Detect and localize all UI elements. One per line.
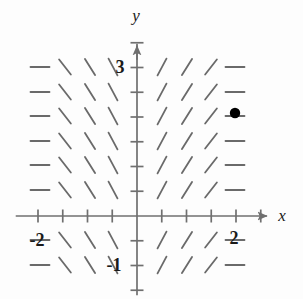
axes-group: [16, 44, 267, 295]
slope-mark: [182, 108, 192, 124]
slope-mark: [158, 84, 167, 101]
slope-mark: [205, 233, 217, 248]
slope-mark: [85, 59, 95, 75]
slope-mark: [158, 157, 167, 174]
slope-mark: [59, 134, 71, 149]
slope-mark: [205, 158, 217, 173]
x-axis-label: x: [278, 207, 286, 224]
slope-mark: [109, 232, 118, 249]
slope-mark: [109, 84, 118, 101]
slope-mark: [85, 157, 95, 173]
slope-mark: [158, 59, 167, 76]
x-tick-label-2: 2: [230, 229, 239, 247]
slope-mark: [85, 182, 95, 198]
slope-mark: [59, 258, 71, 273]
slope-mark: [205, 258, 217, 273]
slope-mark: [182, 157, 192, 173]
y-tick-label-minus1: -1: [107, 256, 122, 274]
slope-mark: [85, 108, 95, 124]
slope-mark: [85, 84, 95, 100]
slope-mark: [85, 257, 95, 273]
slope-mark: [85, 133, 95, 149]
slope-mark: [182, 232, 192, 248]
axis-ticks: [38, 43, 261, 291]
slope-mark: [59, 183, 71, 198]
slope-mark: [109, 133, 118, 150]
slope-mark: [59, 233, 71, 248]
slope-mark: [109, 157, 118, 174]
slope-mark: [182, 84, 192, 100]
slope-mark: [109, 108, 118, 125]
slope-mark: [182, 133, 192, 149]
data-points: [230, 108, 240, 118]
y-tick-label-3: 3: [116, 58, 125, 76]
slope-mark: [205, 85, 217, 100]
slope-mark: [59, 85, 71, 100]
slope-mark: [158, 108, 167, 125]
slope-mark: [182, 59, 192, 75]
slope-mark: [158, 133, 167, 150]
slope-mark: [205, 134, 217, 149]
slope-field-canvas: [0, 0, 303, 299]
data-point: [230, 108, 240, 118]
slope-mark: [85, 232, 95, 248]
slope-mark: [59, 60, 71, 75]
slope-mark: [205, 183, 217, 198]
slope-mark: [158, 182, 167, 199]
y-axis-label: y: [132, 7, 140, 24]
slope-mark: [205, 60, 217, 75]
slope-mark: [158, 232, 167, 249]
slope-mark: [205, 109, 217, 124]
slope-mark: [158, 257, 167, 274]
slope-field-figure: y x 3 -1 -2 2: [0, 0, 303, 299]
slope-mark: [109, 182, 118, 199]
slope-mark: [59, 158, 71, 173]
slope-mark: [59, 109, 71, 124]
slope-mark: [182, 257, 192, 273]
x-tick-label-minus2: -2: [30, 231, 45, 249]
slope-mark: [182, 182, 192, 198]
